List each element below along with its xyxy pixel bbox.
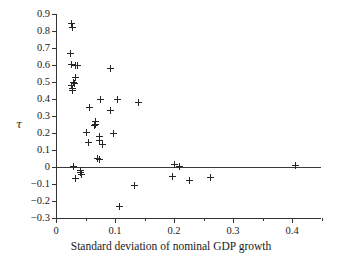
x-tick-mark — [263, 218, 264, 221]
x-axis-label-text: Standard deviation of nominal GDP growth — [71, 240, 271, 252]
y-tick-label: 0.7 — [16, 40, 50, 56]
data-point — [91, 122, 98, 129]
x-tick-mark — [233, 218, 234, 223]
data-point — [110, 130, 117, 137]
data-point — [135, 99, 142, 106]
x-tick-mark — [56, 218, 57, 223]
y-tick-label: 0.1 — [16, 142, 50, 158]
scatter-chart-figure: −0.3−0.2−0.100.10.20.30.40.50.60.70.80.9… — [0, 0, 342, 261]
data-point — [96, 156, 103, 163]
data-point — [85, 139, 92, 146]
data-point — [72, 175, 79, 182]
data-point — [207, 174, 214, 181]
y-tick-label: 0.4 — [16, 91, 50, 107]
data-point — [70, 79, 77, 86]
x-axis-line — [56, 218, 321, 219]
data-point — [72, 62, 79, 69]
data-point — [116, 203, 123, 210]
data-point — [74, 62, 81, 69]
y-tick-mark — [52, 133, 57, 134]
x-tick-mark — [145, 218, 146, 221]
y-tick-mark — [52, 82, 57, 83]
data-point — [68, 82, 75, 89]
x-tick-mark — [174, 218, 175, 223]
y-tick-label: 0.5 — [16, 74, 50, 90]
x-tick-mark — [322, 218, 323, 221]
y-tick-mark — [52, 31, 57, 32]
data-point — [67, 50, 74, 57]
plot-area: −0.3−0.2−0.100.10.20.30.40.50.60.70.80.9… — [56, 14, 321, 218]
y-tick-mark — [52, 14, 57, 15]
data-point — [131, 182, 138, 189]
y-tick-label: −0.2 — [16, 193, 50, 209]
x-tick-label: 0.4 — [275, 224, 309, 238]
x-tick-mark — [292, 218, 293, 223]
data-point — [97, 96, 104, 103]
y-tick-mark — [52, 184, 57, 185]
x-tick-label: 0.3 — [216, 224, 250, 238]
y-tick-label: 0.9 — [16, 6, 50, 22]
y-tick-mark — [52, 116, 57, 117]
data-point — [78, 171, 85, 178]
x-tick-label: 0.1 — [98, 224, 132, 238]
data-point — [83, 129, 90, 136]
data-point — [77, 169, 84, 176]
y-tick-mark — [52, 201, 57, 202]
data-point — [169, 173, 176, 180]
data-point — [69, 85, 76, 92]
data-point — [94, 155, 101, 162]
data-point — [69, 87, 76, 94]
x-tick-label: 0.2 — [157, 224, 191, 238]
data-point — [92, 121, 99, 128]
data-point — [68, 20, 75, 27]
data-point — [92, 118, 99, 125]
data-point — [72, 74, 79, 81]
y-tick-label: 0.6 — [16, 57, 50, 73]
x-tick-label: 0 — [39, 224, 73, 238]
data-point — [86, 104, 93, 111]
data-point — [68, 61, 75, 68]
y-axis-label: τ — [16, 118, 22, 131]
y-tick-mark — [52, 167, 57, 168]
data-point — [99, 141, 106, 148]
y-tick-mark — [52, 48, 57, 49]
zero-reference-line — [56, 167, 321, 168]
data-point — [96, 133, 103, 140]
data-point — [96, 137, 103, 144]
y-tick-label: −0.1 — [16, 176, 50, 192]
x-tick-mark — [204, 218, 205, 221]
y-tick-mark — [52, 99, 57, 100]
y-tick-label: 0.8 — [16, 23, 50, 39]
data-point — [69, 24, 76, 31]
y-tick-mark — [52, 65, 57, 66]
x-tick-mark — [115, 218, 116, 223]
data-point — [71, 80, 78, 87]
data-point — [107, 65, 114, 72]
data-point — [114, 96, 121, 103]
data-point — [186, 177, 193, 184]
x-axis-label: Standard deviation of nominal GDP growth — [0, 240, 342, 252]
data-point — [107, 107, 114, 114]
y-tick-label: 0 — [16, 159, 50, 175]
x-tick-mark — [86, 218, 87, 221]
y-tick-mark — [52, 150, 57, 151]
data-point — [292, 162, 299, 169]
